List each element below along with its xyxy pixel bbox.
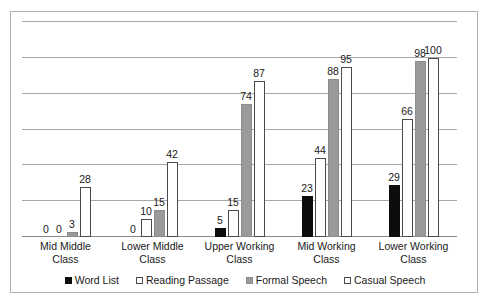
category-label-line: Class <box>22 253 109 266</box>
bar-rect <box>315 158 326 237</box>
bar-value-label: 29 <box>388 172 400 183</box>
category-label-line: Class <box>370 253 457 266</box>
bar-value-label: 0 <box>43 224 49 235</box>
bar-rect <box>141 219 152 237</box>
bar-rect <box>341 67 352 237</box>
bar-value-label: 44 <box>314 145 326 156</box>
bar-value-label: 87 <box>253 68 265 79</box>
bar-rect <box>80 187 91 237</box>
bar-group: 5157487 <box>215 22 265 237</box>
category-label-line: Upper Working <box>196 240 283 253</box>
category-label-line: Class <box>196 253 283 266</box>
bar-rect <box>428 58 439 237</box>
bar-group: 296698100 <box>389 22 439 237</box>
bars-layer: 003280101542515748723448895296698100 <box>22 22 457 237</box>
bar-rect <box>154 210 165 237</box>
bar-value-label: 15 <box>227 197 239 208</box>
bar-rect <box>254 81 265 237</box>
bar-value-label: 23 <box>301 183 313 194</box>
category-label-line: Mid Working <box>283 240 370 253</box>
chart-legend: Word ListReading PassageFormal SpeechCas… <box>11 274 479 286</box>
bar-group: 00328 <box>41 22 91 237</box>
category-axis: Mid MiddleClassLower MiddleClassUpper Wo… <box>22 240 457 272</box>
legend-item[interactable]: Formal Speech <box>246 274 327 286</box>
bar-value-label: 10 <box>140 206 152 217</box>
bar-rect <box>402 119 413 237</box>
legend-swatch-icon <box>344 277 351 284</box>
bar-group: 0101542 <box>128 22 178 237</box>
legend-item[interactable]: Casual Speech <box>344 274 425 286</box>
legend-item[interactable]: Word List <box>65 274 119 286</box>
category-label: Lower MiddleClass <box>109 240 196 266</box>
bar-rect <box>415 61 426 237</box>
category-label-line: Lower Middle <box>109 240 196 253</box>
bar-value-label: 66 <box>401 106 413 117</box>
category-label: Upper WorkingClass <box>196 240 283 266</box>
legend-item-label: Casual Speech <box>354 274 425 286</box>
category-label: Mid WorkingClass <box>283 240 370 266</box>
legend-item[interactable]: Reading Passage <box>136 274 229 286</box>
category-label-line: Lower Working <box>370 240 457 253</box>
bar-rect <box>215 228 226 237</box>
bar-rect <box>302 196 313 237</box>
category-label: Mid MiddleClass <box>22 240 109 266</box>
legend-item-label: Reading Passage <box>146 274 229 286</box>
category-label-line: Class <box>109 253 196 266</box>
bar-value-label: 74 <box>240 91 252 102</box>
bar-value-label: 95 <box>340 54 352 65</box>
bar-rect <box>241 104 252 237</box>
bar-rect <box>67 232 78 237</box>
bar-rect <box>167 162 178 237</box>
legend-swatch-icon <box>136 277 143 284</box>
plot-area: 003280101542515748723448895296698100 <box>22 22 457 237</box>
bar-value-label: 28 <box>79 174 91 185</box>
bar-value-label: 0 <box>130 224 136 235</box>
bar-rect <box>389 185 400 237</box>
bar-value-label: 100 <box>424 45 442 56</box>
bar-group: 23448895 <box>302 22 352 237</box>
category-label-line: Class <box>283 253 370 266</box>
category-label: Lower WorkingClass <box>370 240 457 266</box>
legend-item-label: Formal Speech <box>256 274 327 286</box>
category-label-line: Mid Middle <box>22 240 109 253</box>
legend-swatch-icon <box>65 277 72 284</box>
legend-swatch-icon <box>246 277 253 284</box>
bar-value-label: 88 <box>327 66 339 77</box>
chart-frame: 003280101542515748723448895296698100 Mid… <box>10 11 478 293</box>
bar-value-label: 3 <box>69 219 75 230</box>
bar-value-label: 42 <box>166 149 178 160</box>
bar-value-label: 5 <box>217 215 223 226</box>
bar-rect <box>328 79 339 237</box>
bar-value-label: 0 <box>56 224 62 235</box>
bar-rect <box>228 210 239 237</box>
bar-value-label: 15 <box>153 197 165 208</box>
legend-item-label: Word List <box>75 274 119 286</box>
